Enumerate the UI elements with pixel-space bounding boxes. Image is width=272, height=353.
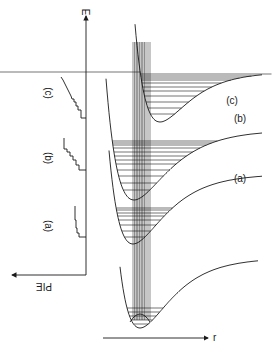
spectrum-b: [64, 138, 86, 170]
spectrum-b-label: (b): [43, 152, 54, 164]
curve-c-label: (c): [226, 95, 238, 106]
ground-curve-curve: [120, 261, 258, 328]
spectrum-a: [75, 206, 86, 237]
energy-axis-label: E: [80, 9, 91, 16]
spectrum-c-label: (c): [43, 87, 54, 99]
spectrum-a-label: (a): [43, 220, 54, 232]
curve-c-curve: [135, 24, 262, 122]
pie-axis-label: PIE: [36, 281, 52, 292]
r-axis-label: r: [213, 332, 217, 343]
potential-energy-diagram: E PIE r (c) (b) (a) (c) (b) (a): [0, 0, 272, 353]
spectrum-c: [61, 77, 86, 118]
curve-a-label: (a): [234, 173, 246, 184]
curve-a-curve: [109, 151, 262, 245]
curve-b-label: (b): [234, 113, 246, 124]
